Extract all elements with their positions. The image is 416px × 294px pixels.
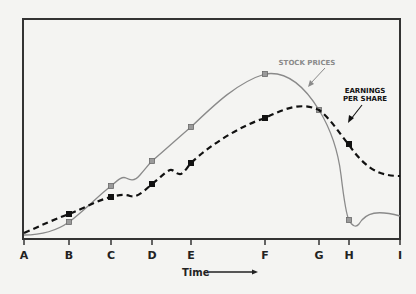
tick-label-i: I [398, 249, 402, 262]
stock-prices-label: STOCK PRICES [279, 59, 336, 67]
eps-pointer-arrow-icon [351, 105, 362, 119]
arrowhead-icon [252, 270, 258, 275]
tick-label-b: B [65, 249, 73, 262]
annotation-stock-prices: STOCK PRICES [279, 59, 336, 87]
stock-pointer-arrow-icon [311, 68, 325, 83]
tick-label-d: D [147, 249, 156, 262]
annotation-earnings-per-share: EARNINGS PER SHARE [343, 87, 387, 123]
earnings-per-share-line [24, 106, 400, 233]
tick-label-a: A [20, 249, 29, 262]
tick-label-c: C [107, 249, 115, 262]
tick-label-h: H [344, 249, 353, 262]
x-axis-tick-labels: A B C D E F G H I [20, 249, 402, 262]
eps-label-line1: EARNINGS [345, 87, 386, 95]
stock-vs-earnings-chart: A B C D E F G H I Time [0, 0, 416, 294]
earnings-per-share-markers [66, 115, 352, 217]
chart-frame [22, 19, 401, 239]
series-earnings-per-share [24, 106, 400, 233]
eps-label-line2: PER SHARE [343, 95, 387, 103]
x-axis-label: Time [182, 267, 210, 278]
tick-label-g: G [314, 249, 323, 262]
x-axis-title: Time [182, 267, 258, 278]
tick-label-e: E [187, 249, 195, 262]
tick-label-f: F [261, 249, 269, 262]
plot-border [23, 19, 400, 239]
